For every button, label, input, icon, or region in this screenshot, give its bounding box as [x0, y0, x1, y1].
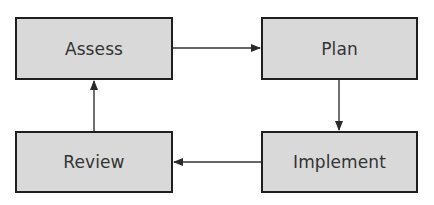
node-review: Review — [15, 131, 173, 193]
node-assess: Assess — [15, 17, 173, 80]
node-plan: Plan — [261, 17, 418, 80]
node-plan-label: Plan — [321, 39, 358, 59]
node-assess-label: Assess — [65, 39, 123, 59]
node-implement-label: Implement — [293, 152, 386, 172]
cycle-diagram: Assess Plan Implement Review — [0, 0, 434, 205]
node-implement: Implement — [261, 131, 418, 193]
node-review-label: Review — [63, 152, 124, 172]
